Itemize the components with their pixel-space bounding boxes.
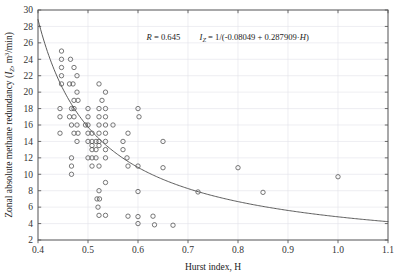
data-point bbox=[103, 180, 107, 184]
x-tick-label: 0.4 bbox=[32, 245, 44, 255]
chart-annotations: R = 0.645IZ = 1/(-0.08049 + 0.287909·H) bbox=[146, 32, 309, 43]
data-point bbox=[121, 147, 125, 151]
x-tick-label: 0.5 bbox=[82, 245, 94, 255]
data-point bbox=[126, 214, 130, 218]
x-tick-label: 0.9 bbox=[282, 245, 294, 255]
data-point bbox=[67, 115, 71, 119]
y-tick-label: 6 bbox=[28, 202, 33, 212]
data-point bbox=[97, 115, 101, 119]
x-tick-label: 0.6 bbox=[132, 245, 144, 255]
y-tick-label: 18 bbox=[24, 104, 34, 114]
x-axis-title: Hurst index, H bbox=[185, 262, 241, 272]
data-point bbox=[161, 166, 165, 170]
data-point bbox=[103, 213, 107, 217]
x-tick-label: 0.8 bbox=[232, 245, 244, 255]
y-tick-label: 4 bbox=[28, 219, 33, 229]
chart-canvas: 0.40.50.60.70.80.91.01.1 246810121416182… bbox=[0, 0, 402, 278]
y-tick-label: 16 bbox=[24, 120, 34, 130]
y-tick-label: 30 bbox=[24, 5, 34, 15]
data-point bbox=[152, 223, 156, 227]
scatter-chart-figure: 0.40.50.60.70.80.91.01.1 246810121416182… bbox=[0, 0, 402, 278]
data-point bbox=[137, 115, 141, 119]
data-point bbox=[90, 164, 94, 168]
data-point bbox=[126, 164, 130, 168]
data-point bbox=[103, 131, 107, 135]
annotation-fit-equation: IZ = 1/(-0.08049 + 0.287909·H) bbox=[199, 32, 309, 43]
data-point bbox=[97, 213, 101, 217]
x-tick-label: 1.1 bbox=[382, 245, 394, 255]
y-tick-label: 20 bbox=[24, 87, 34, 97]
data-point bbox=[100, 98, 104, 102]
y-tick-label: 2 bbox=[28, 235, 33, 245]
annotation-correlation: R = 0.645 bbox=[146, 32, 181, 42]
x-tick-label: 1.0 bbox=[332, 245, 344, 255]
y-tick-label: 26 bbox=[24, 38, 34, 48]
regression-curve bbox=[38, 20, 388, 222]
regression-curve-path bbox=[38, 20, 388, 222]
y-axis-title: Zonal absolute methane redundancy (IZ, m… bbox=[3, 32, 15, 218]
x-axis-ticks: 0.40.50.60.70.80.91.01.1 bbox=[32, 10, 394, 255]
x-tick-label: 0.7 bbox=[182, 245, 194, 255]
data-point bbox=[103, 115, 107, 119]
data-point bbox=[97, 164, 101, 168]
data-point bbox=[126, 131, 130, 135]
data-point bbox=[97, 131, 101, 135]
data-point bbox=[72, 65, 76, 69]
y-tick-label: 8 bbox=[28, 186, 33, 196]
y-tick-label: 28 bbox=[24, 22, 34, 32]
y-tick-label: 12 bbox=[24, 153, 34, 163]
data-point bbox=[59, 49, 63, 53]
data-point bbox=[58, 115, 62, 119]
data-point bbox=[103, 147, 107, 151]
y-tick-label: 14 bbox=[24, 137, 34, 147]
data-point bbox=[58, 131, 62, 135]
data-point bbox=[97, 82, 101, 86]
data-point bbox=[72, 115, 76, 119]
y-tick-label: 22 bbox=[24, 71, 34, 81]
data-point bbox=[59, 65, 63, 69]
data-point bbox=[69, 164, 73, 168]
y-tick-label: 10 bbox=[24, 170, 34, 180]
y-tick-label: 24 bbox=[24, 55, 34, 65]
data-point bbox=[151, 214, 155, 218]
